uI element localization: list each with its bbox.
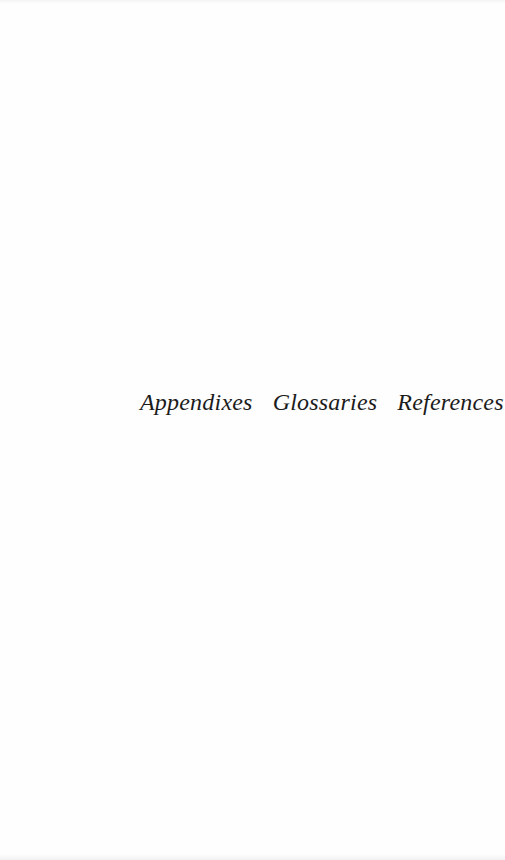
section-title-line: AppendixesGlossariesReferences <box>140 389 504 416</box>
word-references: References <box>397 389 503 416</box>
book-page: AppendixesGlossariesReferences <box>0 0 505 860</box>
scan-edge-top <box>0 0 505 4</box>
word-appendixes: Appendixes <box>140 389 253 416</box>
scan-edge-bottom <box>0 854 505 860</box>
word-glossaries: Glossaries <box>273 389 378 416</box>
